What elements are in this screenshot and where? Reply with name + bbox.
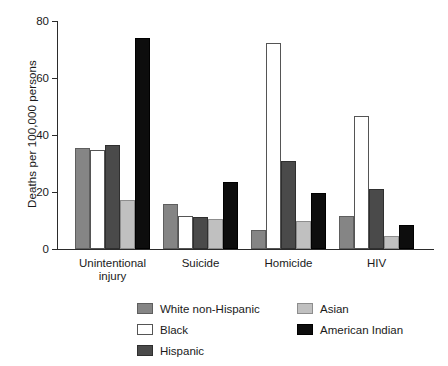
x-axis-label: HIV: [367, 257, 386, 270]
bar: [251, 230, 266, 249]
bar: [178, 216, 193, 249]
legend-label: American Indian: [320, 324, 403, 336]
legend-label: Black: [160, 324, 188, 336]
legend-item: White non-Hispanic: [137, 298, 260, 319]
y-tick-label: 80: [36, 15, 49, 27]
legend-label: Asian: [320, 303, 349, 315]
bar: [208, 219, 223, 249]
bar: [296, 221, 311, 249]
legend-item: Asian: [297, 298, 403, 319]
bar: [354, 116, 369, 249]
legend-swatch-icon: [137, 324, 153, 335]
bar: [193, 217, 208, 249]
bar: [120, 200, 135, 249]
x-axis-label: Unintentional injury: [79, 257, 146, 282]
legend-swatch-icon: [137, 303, 153, 314]
y-tick-label: 40: [36, 129, 49, 141]
legend-label: White non-Hispanic: [160, 303, 260, 315]
y-tick-label: 20: [36, 186, 49, 198]
bar: [90, 150, 105, 249]
bar: [223, 182, 238, 249]
x-axis-line: [57, 249, 434, 250]
bar: [105, 145, 120, 249]
y-tick: [52, 192, 57, 193]
y-tick: [52, 21, 57, 22]
bar-chart: Deaths per 100,000 persons 020406080 Uni…: [0, 0, 448, 366]
bar: [311, 193, 326, 249]
legend-swatch-icon: [297, 324, 313, 335]
legend-item: Hispanic: [137, 340, 260, 361]
y-tick: [52, 78, 57, 79]
bar: [135, 38, 150, 249]
y-tick-label: 0: [43, 243, 49, 255]
bar: [384, 236, 399, 249]
bar: [266, 43, 281, 249]
x-axis-label: Homicide: [265, 257, 313, 270]
legend-item: American Indian: [297, 319, 403, 340]
bar: [369, 189, 384, 249]
legend-column-1: White non-HispanicBlackHispanic: [137, 298, 260, 361]
y-tick: [52, 249, 57, 250]
bar: [75, 148, 90, 249]
y-axis-line: [57, 21, 58, 250]
legend-label: Hispanic: [160, 345, 204, 357]
bar: [399, 225, 414, 249]
bar: [339, 216, 354, 249]
legend-item: Black: [137, 319, 260, 340]
y-tick: [52, 135, 57, 136]
x-axis-label: Suicide: [182, 257, 220, 270]
y-tick-label: 60: [36, 72, 49, 84]
bar: [281, 161, 296, 249]
plot-area: 020406080 Unintentional injurySuicideHom…: [57, 21, 434, 249]
legend-column-2: AsianAmerican Indian: [297, 298, 403, 340]
bar: [163, 204, 178, 249]
legend-swatch-icon: [297, 303, 313, 314]
legend-swatch-icon: [137, 345, 153, 356]
